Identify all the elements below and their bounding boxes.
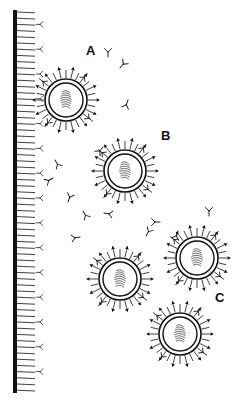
free-antibodies xyxy=(44,49,213,242)
antibody-icon xyxy=(36,71,43,77)
antibody-icon xyxy=(96,298,106,308)
antibody-icon xyxy=(117,59,128,70)
cell-membrane xyxy=(13,10,43,393)
antibody-icon xyxy=(36,245,43,251)
antibody-icon xyxy=(152,219,161,226)
antibody-icon xyxy=(156,353,166,363)
antibody-icon xyxy=(52,158,62,169)
antibody-icon xyxy=(36,344,43,350)
antibody-icon xyxy=(36,270,43,276)
antibody-icon xyxy=(206,208,213,217)
antibody-icon xyxy=(36,369,43,375)
antibody-icon xyxy=(168,234,178,244)
antibody-icon xyxy=(71,234,81,242)
virus-particle-b xyxy=(91,137,159,204)
antibody-icon xyxy=(80,209,90,220)
virus-particle-c xyxy=(86,245,154,312)
antibody-icon xyxy=(134,250,144,260)
antibody-icon xyxy=(173,277,183,287)
label-b: B xyxy=(161,129,170,142)
antibody-icon xyxy=(80,71,90,81)
antibody-icon xyxy=(36,319,43,325)
virus-antibody-illustration xyxy=(0,0,247,402)
antibody-icon xyxy=(36,121,43,127)
label-a: A xyxy=(86,44,95,57)
antibody-icon xyxy=(44,175,55,185)
label-c: C xyxy=(215,291,224,304)
virus-particle-c xyxy=(146,300,214,367)
diagram-canvas: A B C xyxy=(0,0,247,402)
antibody-icon xyxy=(36,96,43,102)
antibody-icon xyxy=(36,294,43,300)
antibody-icon xyxy=(42,119,52,129)
antibody-icon xyxy=(139,142,149,152)
antibody-icon xyxy=(91,255,101,265)
antibody-icon xyxy=(103,210,113,218)
antibody-icon xyxy=(37,76,47,86)
antibody-icon xyxy=(211,229,221,239)
antibody-icon xyxy=(85,114,95,124)
antibody-icon xyxy=(101,190,111,200)
antibody-icon xyxy=(36,170,43,176)
antibody-icon xyxy=(36,46,43,52)
virus-particles xyxy=(32,66,231,367)
antibody-icon xyxy=(139,293,149,303)
antibody-icon xyxy=(151,310,161,320)
antibody-icon xyxy=(194,305,204,315)
antibody-icon xyxy=(144,185,154,195)
antibody-icon xyxy=(199,348,209,358)
antibody-icon xyxy=(216,272,226,282)
antibody-icon xyxy=(36,22,43,28)
antibody-icon xyxy=(122,99,131,109)
antibody-icon xyxy=(65,193,74,203)
virus-particle-c xyxy=(163,224,231,291)
antibody-icon xyxy=(105,49,112,58)
antibody-icon xyxy=(143,227,153,238)
antibody-icon xyxy=(36,195,43,201)
antibody-icon xyxy=(36,146,43,152)
antibody-icon xyxy=(36,220,43,226)
